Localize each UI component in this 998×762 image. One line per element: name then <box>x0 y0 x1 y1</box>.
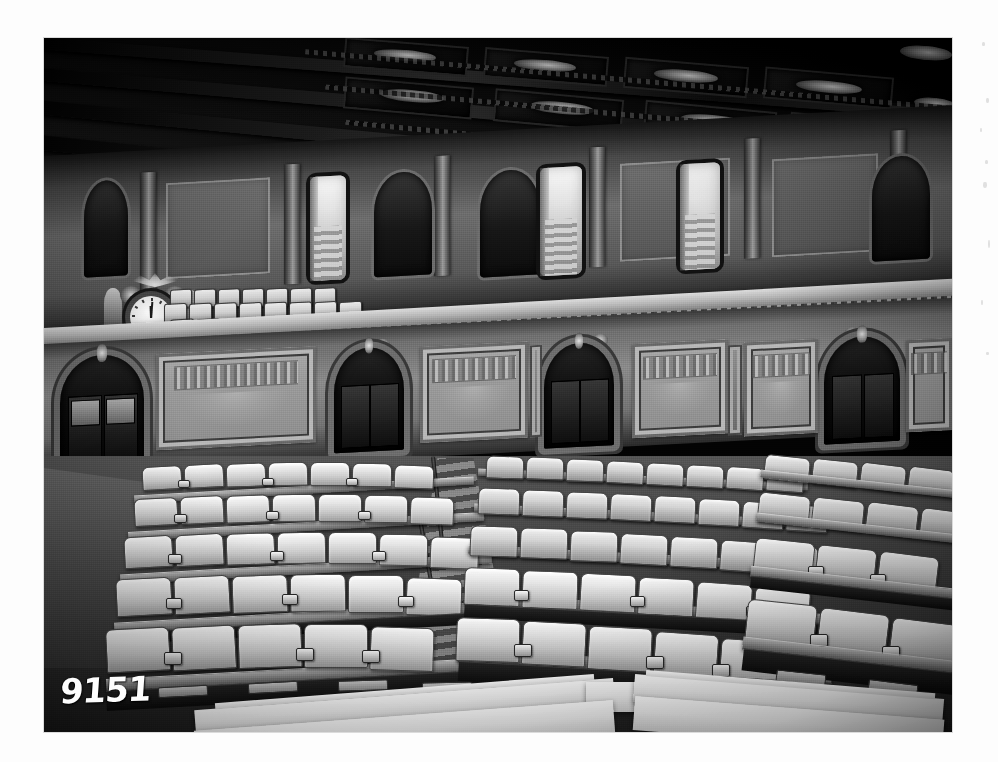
member-chair <box>348 575 404 613</box>
scan-speck <box>985 160 988 164</box>
member-chair <box>669 536 719 569</box>
decorated-wall-panel <box>632 339 728 438</box>
chair-armrest <box>372 551 386 561</box>
member-chair <box>522 489 565 517</box>
narrow-wall-pilaster-panel <box>530 345 542 438</box>
chamber-door-center-right[interactable] <box>544 341 614 449</box>
gallery-arched-niche <box>872 154 930 261</box>
doorway-stair <box>314 225 341 281</box>
chair-armrest <box>164 652 182 665</box>
member-chair <box>290 574 347 613</box>
chair-armrest <box>168 554 182 564</box>
door-glass-light <box>71 399 100 427</box>
member-chair <box>226 462 267 487</box>
member-chair <box>310 462 350 486</box>
member-chair <box>569 530 618 563</box>
photo-mount: 9151 <box>0 0 998 762</box>
door-leaf[interactable] <box>370 383 399 447</box>
gallery-wall-panel <box>772 153 878 257</box>
clock-hour-mark <box>151 298 153 301</box>
photograph: 9151 <box>44 38 952 732</box>
clock-hour-mark <box>135 306 139 309</box>
scan-speck <box>986 352 989 355</box>
chair-armrest <box>270 551 284 561</box>
wall-rosette <box>592 333 608 347</box>
clock-hour-mark <box>159 301 162 305</box>
door-keystone <box>365 337 373 354</box>
door-leaf[interactable] <box>551 380 580 444</box>
member-chair <box>566 491 609 519</box>
member-chair <box>697 498 740 527</box>
chamber-door-right[interactable] <box>824 335 900 445</box>
scan-speck <box>988 240 990 248</box>
chair-armrest <box>282 594 298 605</box>
gallery-open-doorway[interactable] <box>680 162 720 270</box>
member-chair <box>469 525 518 558</box>
clock-minute-hand <box>150 302 153 318</box>
chair-armrest <box>266 511 279 520</box>
wall-pilaster <box>284 164 300 285</box>
member-chair <box>685 464 724 489</box>
panel-swag-ornament <box>182 390 291 428</box>
door-keystone <box>97 344 107 362</box>
wall-pilaster <box>589 147 605 268</box>
member-chair <box>463 567 520 607</box>
door-leaf[interactable] <box>864 373 895 438</box>
door-leaf[interactable] <box>341 385 370 449</box>
chair-armrest <box>166 598 182 609</box>
panel-swag-ornament <box>756 381 806 416</box>
ceiling-skylight-panel <box>899 44 952 62</box>
member-chair <box>519 527 568 560</box>
gallery-open-doorway[interactable] <box>310 175 346 281</box>
decorated-wall-panel <box>744 339 818 437</box>
door-keystone <box>857 326 866 343</box>
decorated-wall-panel <box>156 346 316 450</box>
member-chair <box>579 573 637 614</box>
door-keystone <box>575 332 583 349</box>
clock-hour-mark <box>142 300 145 304</box>
doorway-stair <box>545 218 577 276</box>
member-chair <box>105 626 171 673</box>
negative-number-annotation: 9151 <box>59 668 152 711</box>
chair-armrest <box>398 596 414 607</box>
member-chair <box>123 535 174 570</box>
chair-armrest <box>358 511 371 520</box>
member-chair <box>115 577 173 618</box>
decorated-wall-panel <box>420 341 528 442</box>
wall-pilaster <box>434 155 450 276</box>
member-chair <box>521 570 578 610</box>
member-chair <box>566 458 605 482</box>
chair-armrest <box>514 590 529 601</box>
chamber-door-center-left[interactable] <box>334 346 404 454</box>
gallery-arched-niche <box>374 170 432 277</box>
scan-speck <box>981 300 983 305</box>
member-chair <box>225 532 275 566</box>
chair-armrest <box>178 480 190 488</box>
panel-swag-ornament <box>437 385 510 421</box>
panel-frieze <box>752 352 810 378</box>
door-leaf[interactable] <box>832 375 863 440</box>
chair-armrest <box>174 514 187 523</box>
member-chair <box>486 455 525 479</box>
panel-frieze <box>911 351 947 375</box>
member-chair <box>318 494 362 522</box>
doorway-stair <box>685 213 715 270</box>
member-chair <box>277 532 327 565</box>
scan-speck <box>986 98 989 103</box>
member-chair <box>394 464 435 489</box>
door-leaf[interactable] <box>580 379 609 443</box>
scan-speck <box>982 42 985 46</box>
member-chair <box>478 487 521 515</box>
member-chair <box>609 493 652 522</box>
clock-hour-mark <box>132 315 135 317</box>
member-chair <box>605 460 644 485</box>
panel-frieze <box>643 353 718 379</box>
member-chair <box>653 495 696 524</box>
door-glass-light <box>106 397 135 425</box>
rostrum-platform <box>194 634 934 732</box>
scan-speck <box>980 128 982 132</box>
member-chair <box>410 496 455 526</box>
gallery-open-doorway[interactable] <box>540 166 582 276</box>
panel-swag-ornament <box>647 381 712 416</box>
chair-armrest <box>630 596 645 607</box>
